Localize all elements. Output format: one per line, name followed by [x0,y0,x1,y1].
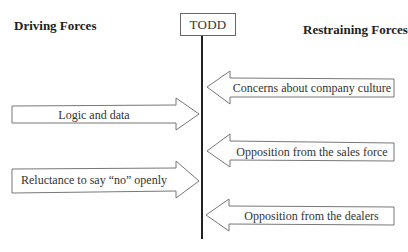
restraining-force-label: Opposition from the sales force [230,145,394,159]
restraining-force-label: Concerns about company culture [230,81,394,95]
driving-force-label: Reluctance to say “no” openly [12,173,176,187]
restraining-force-label: Opposition from the dealers [229,209,394,223]
driving-force-label: Logic and data [12,108,176,122]
